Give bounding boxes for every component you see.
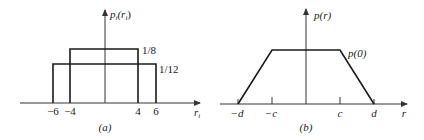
diagram-canvas: pi(ri) 1/8 1/12 −6 −4 4 6 ri (a) p(r) p(… — [0, 0, 424, 140]
tick-label-c: c — [338, 107, 343, 119]
tick-label-d: d — [371, 107, 377, 119]
tick-label-6: 6 — [153, 105, 159, 117]
caption-b: (b) — [300, 121, 313, 134]
x-axis-label-a: ri — [194, 106, 200, 120]
panel-a: pi(ri) 1/8 1/12 −6 −4 4 6 ri (a) — [20, 8, 200, 134]
tick-label-neg-d: −d — [231, 107, 244, 119]
x-axis-label-b: r — [402, 107, 407, 119]
level-label-p0: p(0) — [347, 47, 367, 60]
y-axis-label-a: pi(ri) — [109, 8, 131, 22]
y-axis-label-b: p(r) — [313, 9, 331, 22]
level-label-1-8: 1/8 — [142, 44, 157, 56]
panel-b: p(r) p(0) −d −c c d r (b) — [220, 9, 407, 134]
tick-label-4: 4 — [135, 105, 141, 117]
tick-label-neg4: −4 — [64, 105, 76, 117]
caption-a: (a) — [99, 121, 112, 134]
level-label-1-12: 1/12 — [159, 63, 179, 75]
tick-label-neg-c: −c — [265, 107, 277, 119]
tick-label-neg6: −6 — [47, 105, 59, 117]
uniform-1-8-rect — [70, 49, 138, 103]
